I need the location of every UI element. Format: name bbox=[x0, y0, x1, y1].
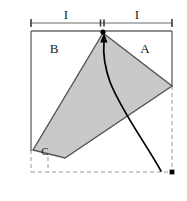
dimension-label-left: I bbox=[64, 7, 68, 22]
dimension-label-right: I bbox=[135, 7, 139, 22]
dimension-line-group bbox=[31, 19, 172, 27]
figure-canvas: I I B A C bbox=[0, 0, 187, 201]
vertex-label-c: C bbox=[41, 145, 48, 157]
apex-point-dot bbox=[100, 29, 105, 34]
corner-point-dot bbox=[170, 170, 175, 175]
geometry-figure: I I B A C bbox=[0, 0, 187, 201]
region-label-a: A bbox=[140, 41, 150, 56]
region-label-b: B bbox=[50, 41, 59, 56]
